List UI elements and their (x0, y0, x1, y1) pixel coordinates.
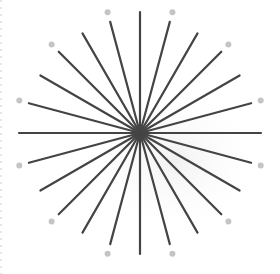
perimeter-dot (258, 98, 264, 104)
starburst-diagram (0, 0, 280, 274)
perimeter-dot (49, 218, 55, 224)
perimeter-dot (16, 162, 22, 168)
perimeter-dot (225, 42, 231, 48)
perimeter-dot (16, 98, 22, 104)
perimeter-dot (49, 42, 55, 48)
perimeter-dot (169, 251, 175, 257)
perimeter-dot (169, 9, 175, 15)
starburst-canvas (0, 0, 280, 274)
perimeter-dot (225, 218, 231, 224)
perimeter-dot (258, 162, 264, 168)
perimeter-dot (105, 251, 111, 257)
perimeter-dot (105, 9, 111, 15)
